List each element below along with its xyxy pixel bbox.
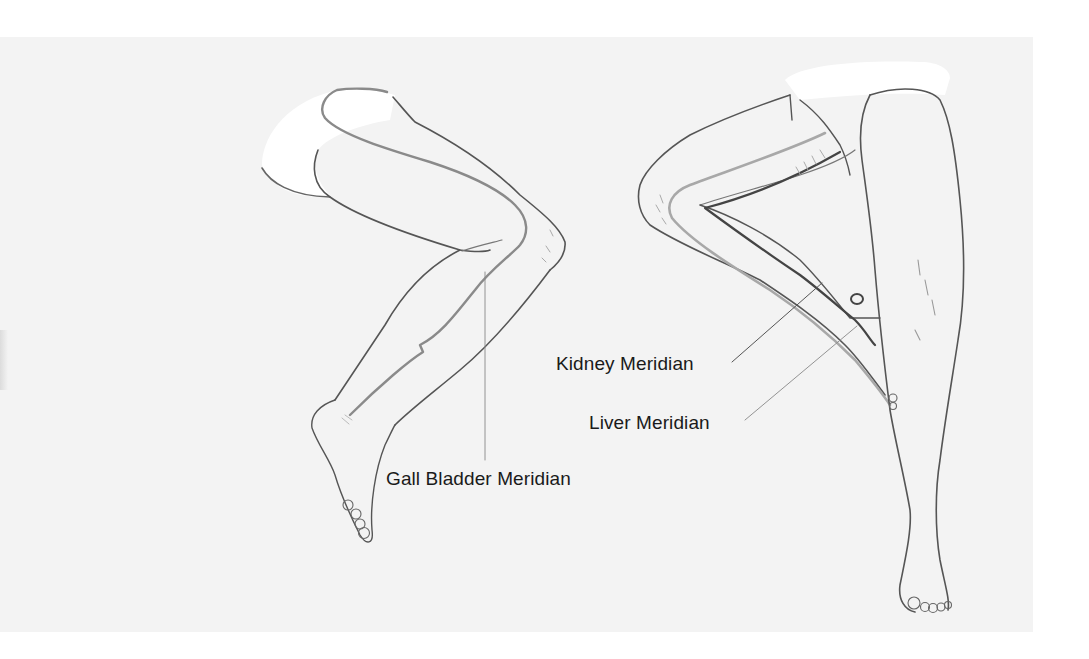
kidney-meridian-loop bbox=[851, 294, 863, 304]
gall-bladder-meridian-label: Gall Bladder Meridian bbox=[386, 468, 571, 490]
kidney-meridian-label: Kidney Meridian bbox=[556, 353, 694, 375]
flexed-foot-toes bbox=[889, 394, 897, 410]
right-toes bbox=[908, 597, 952, 613]
right-knee-shading bbox=[915, 260, 935, 340]
liver-meridian-line bbox=[669, 133, 890, 405]
left-hip-shape bbox=[262, 89, 395, 196]
left-thigh-bottom bbox=[314, 150, 490, 252]
meridian-illustration bbox=[0, 0, 1089, 659]
left-hip-band bbox=[322, 89, 526, 415]
left-knee-shading bbox=[542, 230, 553, 262]
left-foot bbox=[312, 400, 395, 542]
liver-leader-line bbox=[745, 326, 857, 420]
left-ankle-shading bbox=[342, 415, 352, 424]
left-calf-back bbox=[335, 250, 460, 400]
right-thigh-shading bbox=[656, 150, 825, 224]
kidney-meridian-line bbox=[705, 152, 875, 345]
right-standing-leg-inner bbox=[860, 95, 915, 612]
right-flexed-thigh-top bbox=[638, 95, 885, 395]
right-inner-thigh bbox=[700, 150, 855, 205]
right-legs-figure bbox=[638, 62, 963, 613]
liver-meridian-label: Liver Meridian bbox=[589, 412, 710, 434]
left-thigh-top bbox=[393, 97, 565, 270]
left-knee-crease bbox=[462, 240, 502, 251]
right-pelvis-shape bbox=[785, 62, 950, 100]
right-standing-leg-outer bbox=[870, 89, 964, 610]
